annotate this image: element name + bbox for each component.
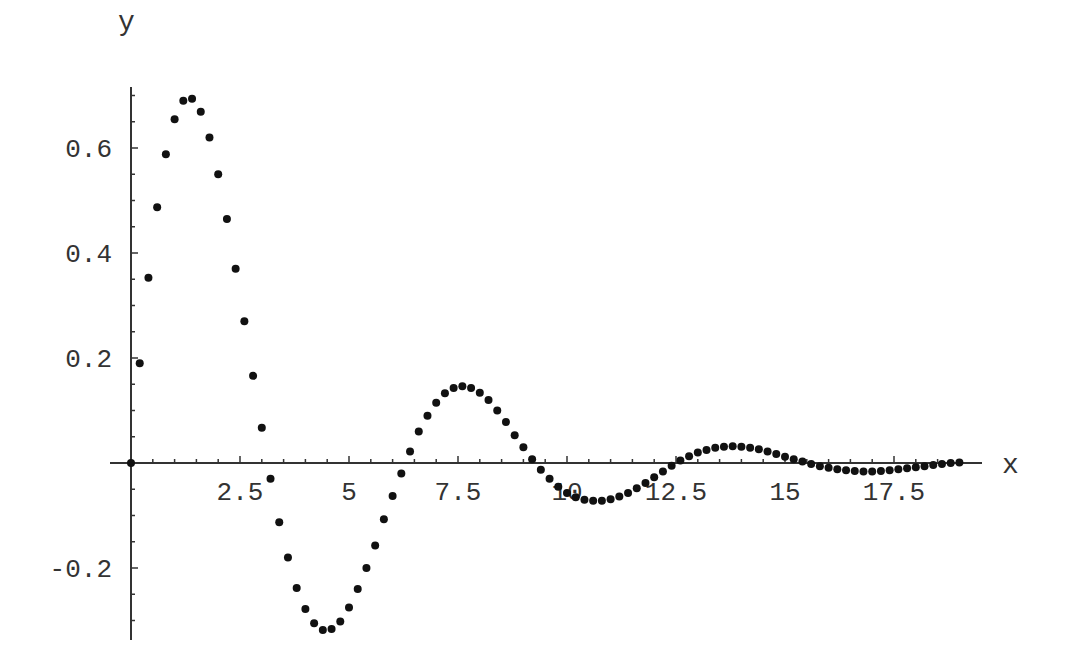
data-point xyxy=(833,465,841,473)
data-point xyxy=(563,489,571,497)
data-point xyxy=(293,584,301,592)
data-point xyxy=(319,626,327,634)
data-point xyxy=(511,431,519,439)
data-point xyxy=(659,467,667,475)
scatter-plot: 2.557.51012.51517.5 0.60.40.2-0.2 x y xyxy=(0,0,1070,669)
data-point xyxy=(807,460,815,468)
data-point xyxy=(432,399,440,407)
y-tick-label: 0.4 xyxy=(65,240,112,270)
data-point xyxy=(877,467,885,475)
data-point xyxy=(729,442,737,450)
data-point xyxy=(938,460,946,468)
data-point xyxy=(624,489,632,497)
data-point xyxy=(703,446,711,454)
x-tick-label: 12.5 xyxy=(645,478,707,508)
data-points xyxy=(127,95,963,634)
data-point xyxy=(423,412,431,420)
data-point xyxy=(825,464,833,472)
data-point xyxy=(842,466,850,474)
data-point xyxy=(668,462,676,470)
data-point xyxy=(397,470,405,478)
y-tick-labels: 0.60.40.2-0.2 xyxy=(50,135,112,585)
y-tick-label: -0.2 xyxy=(50,555,112,585)
data-point xyxy=(798,457,806,465)
data-point xyxy=(171,115,179,123)
data-point xyxy=(223,215,231,223)
data-point xyxy=(127,459,135,467)
data-point xyxy=(275,518,283,526)
data-point xyxy=(851,467,859,475)
x-tick-label: 15 xyxy=(769,478,800,508)
y-tick-label: 0.6 xyxy=(65,135,112,165)
x-tick-label: 5 xyxy=(341,478,357,508)
data-point xyxy=(537,466,545,474)
data-point xyxy=(955,458,963,466)
data-point xyxy=(746,444,754,452)
data-point xyxy=(458,382,466,390)
data-point xyxy=(694,449,702,457)
data-point xyxy=(301,605,309,613)
data-point xyxy=(685,452,693,460)
data-point xyxy=(450,384,458,392)
data-point xyxy=(232,265,240,273)
data-point xyxy=(711,444,719,452)
data-point xyxy=(345,603,353,611)
data-point xyxy=(676,456,684,464)
x-tick-label: 17.5 xyxy=(863,478,925,508)
data-point xyxy=(764,447,772,455)
data-point xyxy=(179,97,187,105)
x-axis-label: x xyxy=(1002,450,1019,481)
data-point xyxy=(894,465,902,473)
data-point xyxy=(929,461,937,469)
data-point xyxy=(572,493,580,501)
data-point xyxy=(310,619,318,627)
data-point xyxy=(598,497,606,505)
data-point xyxy=(406,447,414,455)
data-point xyxy=(441,389,449,397)
data-point xyxy=(240,317,248,325)
data-point xyxy=(580,496,588,504)
data-point xyxy=(284,554,292,562)
data-point xyxy=(607,495,615,503)
data-point xyxy=(136,359,144,367)
data-point xyxy=(859,467,867,475)
data-point xyxy=(886,466,894,474)
data-point xyxy=(249,372,257,380)
data-point xyxy=(502,418,510,426)
data-point xyxy=(328,625,336,633)
x-axis xyxy=(110,456,982,463)
data-point xyxy=(546,475,554,483)
data-point xyxy=(153,203,161,211)
data-point xyxy=(380,515,388,523)
data-point xyxy=(205,134,213,142)
data-point xyxy=(650,473,658,481)
data-point xyxy=(947,459,955,467)
data-point xyxy=(485,396,493,404)
data-point xyxy=(389,492,397,500)
data-point xyxy=(493,407,501,415)
data-point xyxy=(868,467,876,475)
data-point xyxy=(903,464,911,472)
data-point xyxy=(354,585,362,593)
y-axis-label: y xyxy=(118,7,135,38)
data-point xyxy=(267,475,275,483)
y-tick-label: 0.2 xyxy=(65,345,112,375)
data-point xyxy=(467,384,475,392)
data-point xyxy=(633,484,641,492)
data-point xyxy=(790,455,798,463)
data-point xyxy=(589,497,597,505)
data-point xyxy=(781,453,789,461)
data-point xyxy=(214,170,222,178)
data-point xyxy=(528,455,536,463)
data-point xyxy=(258,424,266,432)
data-point xyxy=(336,618,344,626)
data-point xyxy=(476,389,484,397)
data-point xyxy=(737,443,745,451)
data-point xyxy=(371,541,379,549)
data-point xyxy=(755,445,763,453)
data-point xyxy=(615,493,623,501)
data-point xyxy=(816,462,824,470)
data-point xyxy=(197,108,205,116)
data-point xyxy=(162,150,170,158)
data-point xyxy=(415,428,423,436)
